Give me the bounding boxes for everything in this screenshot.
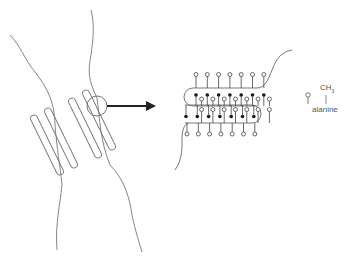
open-circle-icon [306, 93, 310, 97]
formula-main: CH [320, 83, 332, 92]
formula-label: CH3 [320, 84, 334, 94]
arrow-head [146, 101, 156, 111]
lower-tail [175, 123, 188, 170]
arrow [107, 101, 156, 111]
diagram-canvas [0, 0, 353, 260]
membrane [10, 10, 142, 252]
hairpin-1 [29, 114, 64, 176]
membrane-right-edge [89, 10, 142, 252]
alanine-label: alanine [312, 106, 338, 114]
hairpin-strands [29, 89, 116, 176]
formula-sub: 3 [332, 88, 335, 94]
legend-symbol [306, 93, 326, 104]
membrane-left-edge [10, 35, 62, 250]
residue-markers [184, 73, 271, 137]
hairpin-4 [81, 89, 116, 151]
hairpin-3 [67, 97, 102, 159]
upper-tail [257, 50, 292, 88]
hairpin-2 [43, 107, 78, 169]
